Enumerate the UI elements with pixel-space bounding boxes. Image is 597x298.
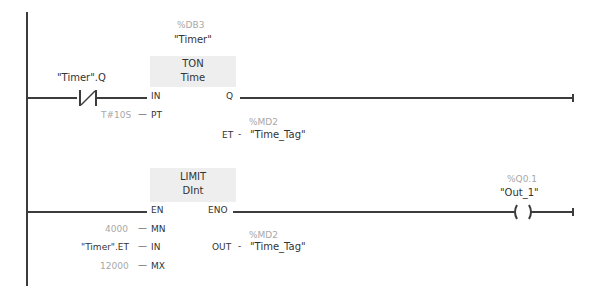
ton-pt-connector: —	[138, 109, 147, 119]
ton-instruction-name: TON	[150, 57, 236, 71]
limit-mx-connector: —	[138, 260, 147, 270]
coil-address: %Q0.1	[507, 174, 537, 184]
left-power-rail	[26, 12, 28, 286]
limit-out-connector: -	[238, 241, 241, 251]
ton-instance-address: %DB3	[177, 20, 204, 30]
rung1-wire-left	[27, 97, 77, 99]
ton-pt-value[interactable]: T#10S	[101, 110, 131, 120]
contact-tag: "Timer".Q	[57, 72, 106, 83]
limit-pin-mn: MN	[151, 224, 166, 234]
limit-mn-value[interactable]: 4000	[105, 224, 128, 234]
ton-et-tag[interactable]: "Time_Tag"	[250, 129, 306, 140]
ton-instance-name: "Timer"	[174, 34, 212, 45]
limit-in-connector: —	[138, 241, 147, 251]
rung2-end-marker	[572, 208, 574, 216]
limit-pin-in: IN	[151, 242, 160, 252]
limit-mn-connector: —	[138, 223, 147, 233]
ton-et-connector: -	[238, 129, 241, 139]
rung1-wire-q-output	[240, 97, 573, 99]
limit-out-address: %MD2	[249, 230, 278, 240]
limit-pin-out: OUT	[212, 242, 231, 252]
limit-instruction-name: LIMIT	[150, 170, 236, 184]
ton-pin-in: IN	[151, 91, 160, 101]
limit-mx-value[interactable]: 12000	[100, 261, 129, 271]
limit-pin-mx: MX	[151, 261, 165, 271]
ton-pin-pt: PT	[151, 110, 162, 120]
rung2-wire-eno-to-coil	[233, 211, 513, 213]
rung2-wire-left	[27, 211, 147, 213]
rung2-wire-coil-to-end	[534, 211, 573, 213]
ton-et-address: %MD2	[249, 117, 278, 127]
rung1-wire-contact-to-in	[97, 97, 147, 99]
ton-instruction-box[interactable]: TON Time	[150, 56, 236, 87]
rung1-end-marker	[572, 94, 574, 102]
limit-pin-eno: ENO	[208, 205, 228, 215]
ton-instruction-type: Time	[150, 71, 236, 85]
ton-pin-q: Q	[226, 91, 233, 101]
ton-pin-et: ET	[222, 130, 233, 140]
normally-closed-contact-icon[interactable]	[77, 89, 99, 107]
limit-pin-en: EN	[151, 205, 163, 215]
limit-instruction-box[interactable]: LIMIT DInt	[150, 168, 236, 202]
limit-out-tag[interactable]: "Time_Tag"	[250, 241, 306, 252]
limit-instruction-type: DInt	[150, 184, 236, 198]
limit-in-value[interactable]: "Timer".ET	[81, 242, 129, 252]
output-coil-icon[interactable]	[511, 203, 535, 221]
coil-tag: "Out_1"	[500, 187, 539, 198]
